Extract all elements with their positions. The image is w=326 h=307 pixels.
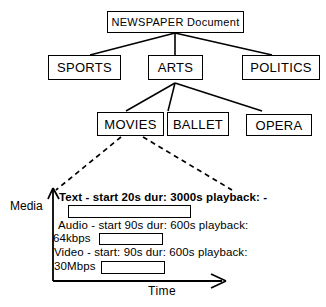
track-video-bar[interactable] [101, 261, 165, 274]
track-text-bar[interactable] [68, 205, 191, 218]
edge-root-politics [175, 33, 272, 55]
tree-node-politics-label: POLITICS [250, 60, 312, 75]
tree-node-sports-label: SPORTS [57, 60, 112, 75]
track-text-description: Text - start 20s dur: 3000s playback: - [59, 191, 267, 203]
diagram-canvas: NEWSPAPER Document SPORTS ARTS POLITICS … [0, 0, 326, 307]
tree-node-newspaper-label: NEWSPAPER Document [111, 16, 239, 28]
edge-arts-movies [126, 83, 175, 111]
x-axis-label: Time [148, 284, 176, 298]
expansion-connectors [56, 137, 232, 190]
track-audio-description: Audio - start 90s dur: 600s playback: [58, 219, 248, 231]
tree-node-newspaper[interactable]: NEWSPAPER Document [107, 11, 244, 33]
track-video-description: Video - start: 90s dur: 600s playback: [54, 246, 247, 258]
edge-root-sports [90, 33, 175, 55]
track-audio-rate: 64kbps [53, 232, 91, 244]
tree-node-ballet[interactable]: BALLET [167, 112, 229, 136]
track-audio-bar[interactable] [99, 233, 163, 245]
tree-node-movies[interactable]: MOVIES [97, 112, 164, 136]
tree-node-ballet-label: BALLET [173, 117, 223, 132]
tree-node-movies-label: MOVIES [104, 117, 156, 132]
tree-node-sports[interactable]: SPORTS [48, 55, 121, 80]
edge-arts-opera [175, 83, 262, 111]
tree-node-opera-label: OPERA [255, 118, 302, 133]
tree-node-arts-label: ARTS [158, 60, 194, 75]
y-axis-label: Media [10, 199, 43, 213]
expansion-line-left [56, 137, 121, 190]
tree-node-opera[interactable]: OPERA [246, 114, 312, 136]
tree-node-arts[interactable]: ARTS [148, 55, 203, 80]
track-video-rate: 30Mbps [54, 260, 96, 272]
tree-node-politics[interactable]: POLITICS [242, 55, 320, 80]
expansion-line-right [143, 137, 232, 190]
